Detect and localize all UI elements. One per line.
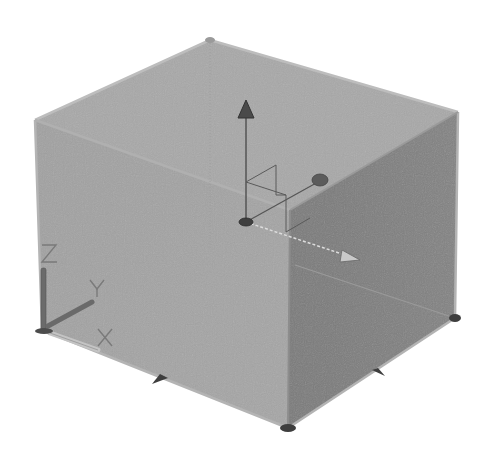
grip-top-back-icon[interactable] — [205, 37, 215, 43]
ucs-z-axis — [41, 268, 46, 330]
grip-bottom-right-icon[interactable] — [449, 314, 461, 322]
box-solid[interactable] — [35, 40, 458, 428]
ucs-origin-grip-icon — [35, 328, 53, 334]
gizmo-origin-grip-icon[interactable] — [239, 218, 253, 226]
gizmo-y-arrow-icon[interactable] — [312, 174, 328, 186]
3d-viewport[interactable] — [0, 0, 487, 460]
grip-bottom-front-icon[interactable] — [280, 424, 296, 432]
